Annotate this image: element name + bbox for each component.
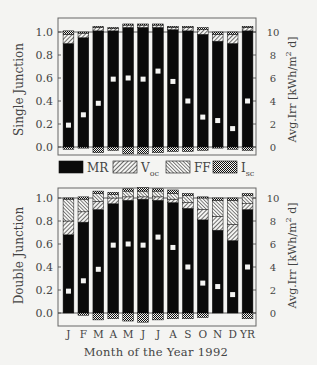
segment-mr <box>242 210 253 314</box>
irradiance-marker <box>156 235 161 240</box>
segment-isc-below <box>212 147 223 148</box>
y2-tick-label: 4 <box>270 262 276 273</box>
irradiance-marker <box>215 118 220 123</box>
bar-M <box>123 24 134 154</box>
bar-S <box>182 26 193 151</box>
segment-mr <box>78 222 89 313</box>
y-tick-label: 1.0 <box>36 26 54 39</box>
segment-mr <box>168 30 179 147</box>
segment-isc-below <box>197 313 208 318</box>
y-axis-label: Single Junction <box>12 43 26 136</box>
irradiance-marker <box>96 101 101 106</box>
segment-mr <box>182 208 193 313</box>
bar-M <box>123 189 134 321</box>
segment-voc <box>78 212 89 222</box>
y-axis-label: Double Junction <box>12 206 26 304</box>
bar-J <box>153 24 164 153</box>
segment-ff <box>108 195 119 198</box>
segment-ff <box>197 198 208 210</box>
segment-mr <box>153 200 164 313</box>
irradiance-marker <box>126 242 131 247</box>
bar-A <box>108 27 119 150</box>
irradiance-marker <box>66 123 71 128</box>
segment-isc <box>93 191 104 193</box>
segment-isc <box>242 26 253 27</box>
legend-swatch <box>166 161 190 173</box>
irradiance-marker <box>185 265 190 270</box>
segment-isc-below <box>108 147 119 150</box>
segment-isc <box>197 197 208 198</box>
irradiance-marker <box>111 77 116 82</box>
segment-isc-below <box>227 147 238 149</box>
bar-M <box>93 26 104 153</box>
segment-isc <box>212 198 223 200</box>
segment-voc <box>168 199 179 202</box>
irradiance-marker <box>66 289 71 294</box>
segment-mr <box>138 27 149 147</box>
segment-ff <box>227 200 238 224</box>
x-tick-label: M <box>123 328 134 340</box>
segment-voc <box>93 27 104 30</box>
segment-voc <box>63 34 74 43</box>
bar-YR <box>242 193 253 318</box>
legend-swatch <box>113 161 137 173</box>
legend-label: MR <box>87 161 109 175</box>
irradiance-marker <box>245 99 250 104</box>
bar-F <box>78 32 89 148</box>
irradiance-marker <box>141 77 146 82</box>
irradiance-marker <box>156 69 161 74</box>
y2-axis-label: Avg.Irr [kWh/m2 d] <box>284 202 299 309</box>
legend-label: Isc <box>241 161 255 178</box>
segment-mr <box>197 34 208 147</box>
segment-mr <box>212 230 223 313</box>
segment-isc <box>182 26 193 27</box>
segment-ff <box>123 191 134 197</box>
segment-isc <box>212 32 223 34</box>
segment-voc <box>197 30 208 35</box>
segment-isc-below <box>242 313 253 319</box>
legend-swatch <box>59 161 83 173</box>
segment-isc <box>197 27 208 29</box>
segment-voc <box>108 198 119 204</box>
segment-mr <box>227 241 238 313</box>
y2-tick-label: 8 <box>270 216 276 227</box>
segment-mr <box>63 235 74 313</box>
bar-J <box>63 198 74 313</box>
segment-voc <box>197 210 208 220</box>
segment-isc-below <box>153 313 164 320</box>
segment-mr <box>93 31 104 147</box>
irradiance-marker <box>126 76 131 81</box>
segment-isc <box>93 26 104 27</box>
segment-voc <box>153 25 164 27</box>
y2-tick-label: 10 <box>267 27 280 38</box>
segment-isc <box>138 188 149 191</box>
segment-isc-below <box>93 313 104 320</box>
segment-isc-below <box>182 147 193 152</box>
segment-isc <box>242 193 253 195</box>
y2-tick-label: 2 <box>270 119 276 130</box>
bar-S <box>182 193 193 318</box>
legend-label: FF <box>194 161 211 175</box>
segment-isc-below <box>63 147 74 149</box>
x-tick-label: N <box>213 328 222 340</box>
segment-mr <box>182 31 193 147</box>
segment-voc <box>182 203 193 209</box>
bar-O <box>197 197 208 318</box>
segment-isc-below <box>182 313 193 319</box>
segment-mr <box>227 44 238 148</box>
x-tick-label: D <box>228 328 236 340</box>
bar-A <box>108 192 119 319</box>
legend: MRVocFFIsc <box>59 161 255 178</box>
irradiance-marker <box>200 281 205 286</box>
bar-J <box>63 31 74 149</box>
segment-ff <box>153 191 164 197</box>
irradiance-marker <box>200 115 205 120</box>
segment-voc <box>227 224 238 240</box>
segment-isc <box>123 189 134 191</box>
segment-voc <box>182 27 193 30</box>
bar-A <box>168 190 179 319</box>
legend-item-mr: MR <box>59 161 109 175</box>
segment-isc <box>182 193 193 195</box>
segment-isc <box>138 24 149 25</box>
x-tick-label: O <box>198 328 207 340</box>
